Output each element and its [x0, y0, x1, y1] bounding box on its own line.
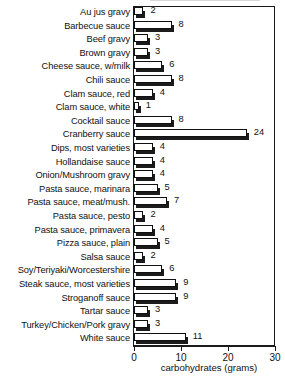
bar-value-label: 5: [165, 182, 170, 193]
bar-value-label: 3: [155, 46, 160, 57]
category-label: Tartar sauce: [0, 305, 133, 317]
category-label: Hollandaise sauce: [0, 156, 133, 168]
bar-value-label: 1: [146, 100, 151, 111]
bar-row: Hollandaise sauce4: [0, 156, 285, 170]
bar: [134, 34, 151, 46]
bar: [134, 238, 161, 250]
bar-face: [134, 89, 153, 97]
scan-artifact: [150, 0, 260, 1]
category-label: Clam sauce, red: [0, 88, 133, 100]
bar: [134, 7, 146, 19]
bar-face: [134, 320, 148, 328]
bar-row: Cocktail sauce8: [0, 115, 285, 129]
category-label: Cranberry sauce: [0, 128, 133, 140]
bar-face: [134, 252, 143, 260]
bar-value-label: 8: [179, 19, 184, 30]
category-label: Steak sauce, most varieties: [0, 278, 133, 290]
bar-row: Stroganoff sauce9: [0, 292, 285, 306]
bar-row: White sauce11: [0, 332, 285, 346]
bar-value-label: 3: [155, 304, 160, 315]
bar-row: Clam sauce, red4: [0, 88, 285, 102]
bar: [134, 279, 179, 291]
bar-face: [134, 238, 158, 246]
bar-face: [134, 129, 247, 137]
bar: [134, 306, 151, 318]
x-axis-tick: [275, 346, 276, 351]
bar-face: [134, 211, 143, 219]
bar: [134, 293, 179, 305]
bar: [134, 48, 151, 60]
bar-value-label: 2: [150, 5, 155, 16]
category-label: Brown gravy: [0, 47, 133, 59]
category-label: Barbecue sauce: [0, 20, 133, 32]
category-label: Beef gravy: [0, 33, 133, 45]
bar-face: [134, 34, 148, 42]
category-label: Pasta sauce, marinara: [0, 183, 133, 195]
bar-value-label: 6: [169, 59, 174, 70]
category-label: Au jus gravy: [0, 6, 133, 18]
bar-face: [134, 116, 172, 124]
category-label: Pasta sauce, meat/mush.: [0, 196, 133, 208]
bar-value-label: 11: [193, 331, 203, 342]
bar-value-label: 5: [165, 236, 170, 247]
bar: [134, 211, 146, 223]
bar: [134, 116, 175, 128]
category-label: Salsa sauce: [0, 251, 133, 263]
bar-row: Cheese sauce, w/milk6: [0, 60, 285, 74]
bar-value-label: 3: [155, 318, 160, 329]
bar: [134, 89, 156, 101]
bar-value-label: 3: [155, 32, 160, 43]
category-label: Pizza sauce, plain: [0, 237, 133, 249]
bar-face: [134, 157, 153, 165]
bar-row: Salsa sauce2: [0, 251, 285, 265]
bar-face: [134, 102, 139, 110]
bar-row: Pasta sauce, marinara5: [0, 183, 285, 197]
bar-face: [134, 170, 153, 178]
bar-value-label: 7: [174, 195, 179, 206]
bar-row: Dips, most varieties4: [0, 142, 285, 156]
bar-row: Pasta sauce, meat/mush.7: [0, 196, 285, 210]
category-label: Soy/Teriyaki/Worcestershire: [0, 264, 133, 276]
bar: [134, 197, 170, 209]
category-label: Cocktail sauce: [0, 115, 133, 127]
bar-value-label: 4: [160, 155, 165, 166]
bar-value-label: 2: [150, 209, 155, 220]
bar-row: Onion/Mushroom gravy4: [0, 169, 285, 183]
bar-value-label: 9: [183, 291, 188, 302]
category-label: Dips, most varieties: [0, 142, 133, 154]
bar-face: [134, 48, 148, 56]
bar-face: [134, 143, 153, 151]
bar-row: Brown gravy3: [0, 47, 285, 61]
x-axis-tick: [134, 346, 135, 351]
category-label: Clam sauce, white: [0, 101, 133, 113]
bar-row: Clam sauce, white1: [0, 101, 285, 115]
category-label: Stroganoff sauce: [0, 292, 133, 304]
x-axis-tick: [181, 346, 182, 351]
bar-face: [134, 225, 153, 233]
bar-row: Au jus gravy2: [0, 6, 285, 20]
bar: [134, 252, 146, 264]
bar-face: [134, 184, 158, 192]
bar-value-label: 8: [179, 73, 184, 84]
x-axis-tick: [228, 346, 229, 351]
bar-row: Steak sauce, most varieties9: [0, 278, 285, 292]
bar-rows-container: Au jus gravy2Barbecue sauce8Beef gravy3B…: [0, 6, 285, 346]
bar: [134, 225, 156, 237]
bar: [134, 21, 175, 33]
bar-row: Soy/Teriyaki/Worcestershire6: [0, 264, 285, 278]
bar-row: Barbecue sauce8: [0, 20, 285, 34]
bar-row: Pasta sauce, primavera4: [0, 224, 285, 238]
bar-row: Turkey/Chicken/Pork gravy3: [0, 319, 285, 333]
bar-row: Tartar sauce3: [0, 305, 285, 319]
bar-value-label: 4: [160, 223, 165, 234]
bar-value-label: 24: [254, 127, 264, 138]
x-axis-title: carbohydrates (grams): [133, 362, 285, 374]
bar-face: [134, 61, 162, 69]
category-label: Cheese sauce, w/milk: [0, 60, 133, 72]
bar-value-label: 2: [150, 250, 155, 261]
bar: [134, 170, 156, 182]
category-label: Chili sauce: [0, 74, 133, 86]
bar-face: [134, 75, 172, 83]
bar-face: [134, 293, 176, 301]
bar: [134, 320, 151, 332]
